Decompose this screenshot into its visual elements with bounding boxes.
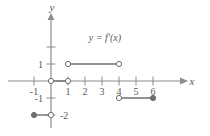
x-axis-arrow-icon bbox=[180, 78, 188, 85]
x-tick-label-5: 5 bbox=[134, 86, 139, 97]
segment-zero-right-open-endpoint bbox=[65, 78, 70, 83]
segment-zero-left-open-endpoint bbox=[48, 78, 53, 83]
segment-minus-one-right-closed-endpoint bbox=[150, 95, 155, 100]
y-tick-label-1: 1 bbox=[38, 59, 43, 70]
segment-minus-two-right-open-endpoint bbox=[48, 112, 53, 117]
segment-one-right-open-endpoint bbox=[116, 61, 121, 66]
figure-container: -1 1 2 3 4 5 6 1 -1 -2 x y y = f′(x) bbox=[0, 0, 210, 136]
segment-minus-one-left-open-endpoint bbox=[116, 95, 121, 100]
segment-one-left-open-endpoint bbox=[65, 61, 70, 66]
x-tick-label-3: 3 bbox=[100, 86, 105, 97]
y-axis-label: y bbox=[49, 1, 55, 13]
y-axis-arrow-icon bbox=[48, 13, 55, 20]
x-tick-label-1: 1 bbox=[66, 86, 71, 97]
curve-label: y = f′(x) bbox=[88, 32, 122, 44]
x-axis-label: x bbox=[189, 75, 195, 87]
y-tick-label--1: -1 bbox=[35, 93, 43, 104]
graph-canvas: -1 1 2 3 4 5 6 1 -1 -2 x y y = f′(x) bbox=[0, 0, 210, 136]
x-tick-label-2: 2 bbox=[83, 86, 88, 97]
segment-minus-two-left-closed-endpoint bbox=[31, 112, 36, 117]
y-tick-label--2: -2 bbox=[60, 110, 68, 121]
